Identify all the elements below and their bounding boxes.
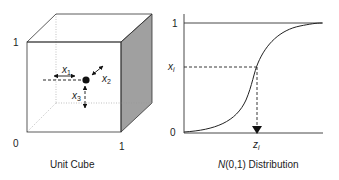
cube-label-origin: 0 xyxy=(13,138,19,149)
y-label-zero: 0 xyxy=(170,127,176,138)
x2-label: x2 xyxy=(101,73,111,85)
x1-label: x1 xyxy=(61,64,71,76)
cdf-curve xyxy=(184,23,322,132)
normal-cdf-plot: 1 xi 0 zi N(0,1) Distribution xyxy=(167,14,323,170)
sample-point xyxy=(82,76,89,83)
y-label-xi: xi xyxy=(167,61,175,73)
y-label-one: 1 xyxy=(172,18,178,29)
x3-label: x3 xyxy=(71,90,81,102)
cube-right-face xyxy=(121,14,152,132)
diagram-canvas: x1 x2 x3 1 0 1 Unit Cube 1 xi 0 zi N(0,1… xyxy=(0,0,339,180)
x-label-zi: zi xyxy=(252,139,260,151)
cdf-caption: N(0,1) Distribution xyxy=(218,159,299,170)
cube-hidden-edge xyxy=(27,103,56,132)
cube-front-face xyxy=(27,42,121,132)
cube-label-top-one: 1 xyxy=(13,37,19,48)
cube-caption: Unit Cube xyxy=(50,159,95,170)
cube-label-right-one: 1 xyxy=(119,141,125,152)
unit-cube: x1 x2 x3 1 0 1 Unit Cube xyxy=(13,14,152,170)
